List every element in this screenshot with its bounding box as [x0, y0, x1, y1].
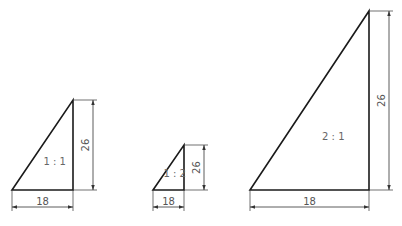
- triangle-figure-scale-1-1: 26181 : 1: [12, 100, 97, 211]
- triangle-figure-scale-2-1: 26182 : 1: [250, 11, 393, 211]
- height-label: 26: [191, 161, 202, 174]
- right-triangle-shape: [12, 100, 73, 190]
- scale-drawing-canvas: 26181 : 126181 : 226182 : 1: [0, 0, 402, 226]
- triangle-figure-scale-1-2: 26181 : 2: [153, 145, 208, 211]
- scale-label: 2 : 1: [322, 131, 344, 142]
- height-label: 26: [376, 94, 387, 107]
- scale-label: 1 : 1: [43, 156, 65, 167]
- scale-label: 1 : 2: [163, 168, 185, 179]
- right-triangle-shape: [250, 11, 369, 190]
- width-label: 18: [36, 196, 49, 207]
- width-label: 18: [162, 196, 175, 207]
- height-label: 26: [80, 139, 91, 152]
- width-label: 18: [303, 196, 316, 207]
